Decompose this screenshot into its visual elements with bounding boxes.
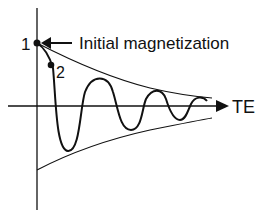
x-axis-arrowhead-icon: [216, 100, 229, 112]
initial-magnetization-label: Initial magnetization: [79, 34, 229, 53]
point-1-label: 1: [21, 35, 30, 54]
oscillation-curve: [37, 43, 207, 151]
point-2-label: 2: [56, 64, 65, 81]
x-axis-label: TE: [232, 97, 255, 117]
point-1-marker: [34, 40, 41, 47]
damped-oscillation-diagram: 1 2 Initial magnetization TE: [0, 0, 263, 218]
point-2-marker: [48, 62, 55, 69]
